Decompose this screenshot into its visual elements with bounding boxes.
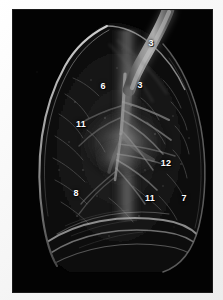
scan-plate: 3 3 6 11 12 8 11 7 bbox=[13, 10, 212, 292]
annotation-label: 12 bbox=[161, 159, 171, 168]
figure-root: 3 3 6 11 12 8 11 7 bbox=[0, 0, 223, 300]
annotation-label: 11 bbox=[76, 120, 86, 129]
annotation-label: 7 bbox=[181, 194, 186, 203]
annotation-label: 3 bbox=[148, 39, 153, 48]
annotation-label: 8 bbox=[73, 189, 78, 198]
annotation-label: 6 bbox=[100, 82, 105, 91]
lung-anatomy-image bbox=[13, 10, 212, 292]
annotation-label: 11 bbox=[145, 194, 155, 203]
annotation-label: 3 bbox=[137, 81, 142, 90]
